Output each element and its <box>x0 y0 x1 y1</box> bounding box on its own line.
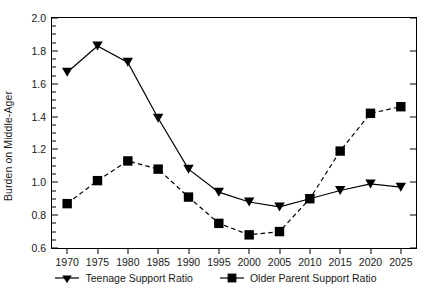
y-axis-minor-tick <box>52 239 56 240</box>
y-axis-minor-tick <box>52 108 56 109</box>
y-axis-tick <box>52 149 58 150</box>
x-axis-tick-label: 2015 <box>328 256 351 268</box>
y-axis-minor-tick <box>52 67 56 68</box>
y-axis-tick-right <box>410 215 416 216</box>
triangle-down-icon <box>54 272 80 284</box>
y-axis-minor-tick <box>52 59 56 60</box>
y-axis-tick-right <box>410 83 416 84</box>
x-axis-tick <box>249 248 250 254</box>
y-axis-minor-tick <box>52 141 56 142</box>
data-point-triangle <box>214 188 224 197</box>
y-axis-tick <box>52 215 58 216</box>
y-axis-tick <box>52 182 58 183</box>
x-axis-tick-label: 1990 <box>177 256 200 268</box>
x-axis-tick-label: 2000 <box>237 256 260 268</box>
legend-item-older-parent-support-ratio: Older Parent Support Ratio <box>219 272 377 284</box>
legend-item-teenage-support-ratio: Teenage Support Ratio <box>54 272 192 284</box>
data-point-triangle <box>153 114 163 123</box>
y-axis-minor-tick <box>52 91 56 92</box>
y-axis-minor-tick <box>52 231 56 232</box>
y-axis-minor-tick <box>52 190 56 191</box>
x-axis-tick <box>188 248 189 254</box>
x-axis-tick-label: 1995 <box>207 256 230 268</box>
data-point-square <box>396 102 405 111</box>
y-axis-minor-tick <box>52 34 56 35</box>
legend-label: Teenage Support Ratio <box>85 272 192 284</box>
x-axis-tick-label: 1985 <box>146 256 169 268</box>
data-point-square <box>184 192 193 201</box>
y-axis-minor-tick <box>52 223 56 224</box>
x-axis-tick-label: 1980 <box>116 256 139 268</box>
y-axis-tick-right <box>410 149 416 150</box>
series-line-0 <box>67 46 401 207</box>
x-axis-tick-label: 1970 <box>55 256 78 268</box>
x-axis-tick-label: 2020 <box>359 256 382 268</box>
data-point-square <box>93 176 102 185</box>
y-axis-tick <box>52 116 58 117</box>
x-axis-tick-label: 2025 <box>389 256 412 268</box>
legend-label: Older Parent Support Ratio <box>250 272 377 284</box>
data-point-square <box>244 230 253 239</box>
y-axis-minor-tick <box>52 198 56 199</box>
x-axis-tick-label: 1975 <box>86 256 109 268</box>
y-axis-tick-right <box>410 182 416 183</box>
y-axis-tick-right <box>410 248 416 249</box>
data-point-triangle <box>123 58 133 67</box>
y-axis-tick <box>52 18 58 19</box>
chart-legend: Teenage Support Ratio Older Parent Suppo… <box>0 272 431 284</box>
y-axis-tick <box>52 83 58 84</box>
x-axis-tick-label: 2005 <box>268 256 291 268</box>
chart-figure: Burden on Middle-Ager 0.60.81.01.21.41.6… <box>0 0 431 292</box>
data-point-square <box>123 156 132 165</box>
y-axis-tick-label: 1.0 <box>31 176 46 188</box>
x-axis-tick <box>279 248 280 254</box>
y-axis-tick <box>52 248 58 249</box>
y-axis-tick-label: 0.6 <box>31 242 46 254</box>
data-point-square <box>366 109 375 118</box>
y-axis-tick-label: 0.8 <box>31 209 46 221</box>
data-point-triangle <box>335 186 345 195</box>
x-axis-tick <box>309 248 310 254</box>
x-axis-tick <box>127 248 128 254</box>
y-axis-tick-label: 2.0 <box>31 12 46 24</box>
data-point-square <box>305 194 314 203</box>
plot-area: 0.60.81.01.21.41.61.82.01970197519801985… <box>51 17 417 249</box>
y-axis-minor-tick <box>52 165 56 166</box>
x-axis-tick <box>370 248 371 254</box>
y-axis-minor-tick <box>52 100 56 101</box>
chart-series-layer <box>52 18 416 248</box>
y-axis-minor-tick <box>52 26 56 27</box>
x-axis-tick <box>158 248 159 254</box>
series-line-1 <box>67 107 401 235</box>
x-axis-tick <box>400 248 401 254</box>
data-point-square <box>275 227 284 236</box>
y-axis-tick-right <box>410 50 416 51</box>
y-axis-tick-label: 1.2 <box>31 143 46 155</box>
x-axis-tick-label: 2010 <box>298 256 321 268</box>
data-point-triangle <box>62 68 72 77</box>
y-axis-minor-tick <box>52 75 56 76</box>
y-axis-minor-tick <box>52 124 56 125</box>
data-point-square <box>62 199 71 208</box>
y-axis-tick-right <box>410 18 416 19</box>
data-point-square <box>214 219 223 228</box>
y-axis-minor-tick <box>52 42 56 43</box>
data-point-square <box>153 164 162 173</box>
y-axis-minor-tick <box>52 133 56 134</box>
x-axis-tick <box>218 248 219 254</box>
y-axis-title: Burden on Middle-Ager <box>0 0 16 292</box>
y-axis-tick-right <box>410 116 416 117</box>
data-point-square <box>335 146 344 155</box>
y-axis-tick-label: 1.8 <box>31 45 46 57</box>
x-axis-tick <box>67 248 68 254</box>
x-axis-tick <box>97 248 98 254</box>
square-icon <box>219 272 245 284</box>
y-axis-tick-label: 1.6 <box>31 78 46 90</box>
x-axis-tick <box>340 248 341 254</box>
y-axis-tick-label: 1.4 <box>31 111 46 123</box>
y-axis-minor-tick <box>52 174 56 175</box>
y-axis-tick <box>52 50 58 51</box>
y-axis-minor-tick <box>52 206 56 207</box>
y-axis-minor-tick <box>52 157 56 158</box>
